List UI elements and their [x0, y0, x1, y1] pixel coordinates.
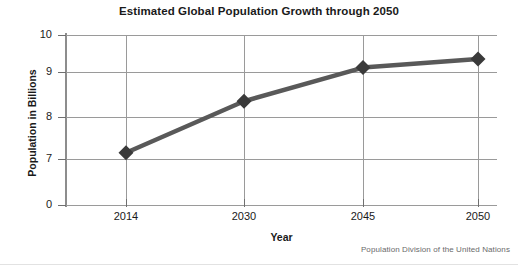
x-tick-mark [126, 199, 127, 207]
gridline-horizontal [66, 159, 497, 160]
x-tick-mark [363, 199, 364, 207]
chart-figure: Estimated Global Population Growth throu… [0, 0, 518, 265]
x-tick-label: 2050 [443, 210, 513, 222]
x-tick-mark [478, 199, 479, 207]
y-tick-label: 7 [8, 152, 52, 164]
x-axis-title: Year [66, 231, 497, 243]
y-axis-title: Population in Billions [26, 38, 38, 208]
x-tick-label: 2030 [209, 210, 279, 222]
gridline-vertical [478, 35, 479, 205]
gridline-horizontal [66, 72, 497, 73]
y-tick-label: 0 [8, 198, 52, 210]
plot-area [66, 35, 497, 205]
y-tick-mark [58, 72, 66, 73]
x-tick-mark [244, 199, 245, 207]
y-tick-label: 9 [8, 65, 52, 77]
y-tick-mark [58, 159, 66, 160]
gridline-horizontal [66, 117, 497, 118]
y-tick-label: 10 [8, 28, 52, 40]
y-tick-mark [58, 117, 66, 118]
source-note: Population Division of the United Nation… [361, 245, 510, 254]
gridline-vertical [126, 35, 127, 205]
gridline-vertical [363, 35, 364, 205]
y-tick-mark [58, 35, 66, 36]
gridline-horizontal [66, 35, 497, 36]
x-tick-label: 2045 [328, 210, 398, 222]
gridline-vertical [244, 35, 245, 205]
chart-title: Estimated Global Population Growth throu… [0, 5, 518, 17]
y-tick-mark [58, 205, 66, 206]
y-tick-label: 8 [8, 110, 52, 122]
x-tick-label: 2014 [91, 210, 161, 222]
gridline-horizontal [66, 205, 497, 206]
